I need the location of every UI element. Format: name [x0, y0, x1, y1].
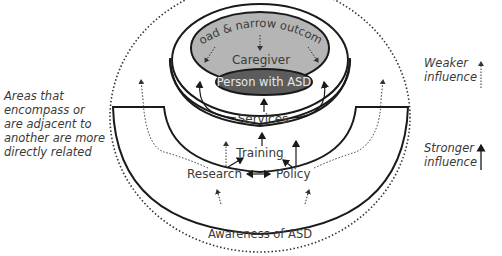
left-note-line: another are more: [4, 131, 105, 145]
left-note-line: are adjacent to: [4, 117, 105, 131]
stronger-line: influence: [424, 155, 477, 169]
stronger-line: Stronger: [424, 141, 477, 155]
policy-label: Policy: [276, 167, 311, 181]
left-note-line: directly related: [4, 145, 105, 159]
research-label: Research: [187, 167, 242, 181]
weaker-line: influence: [424, 70, 477, 84]
left-note-line: Areas that: [4, 89, 105, 103]
caregiver-label: Caregiver: [232, 53, 290, 67]
awareness-label: Awareness of ASD: [208, 227, 312, 241]
weaker-influence-legend: Weaker influence: [424, 56, 477, 84]
weaker-line: Weaker: [424, 56, 477, 70]
left-note: Areas that encompass or are adjacent to …: [4, 89, 105, 159]
person-label: Person with ASD: [217, 75, 312, 89]
left-note-line: encompass or: [4, 103, 105, 117]
stronger-influence-legend: Stronger influence: [424, 141, 477, 169]
services-label: Services: [238, 112, 289, 126]
